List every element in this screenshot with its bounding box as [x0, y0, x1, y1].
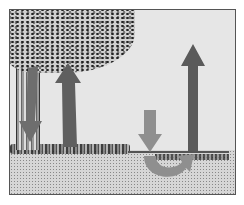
diagram-frame — [9, 9, 236, 195]
arrow-up-left-icon — [53, 63, 83, 153]
arrow-curved-soil-icon — [138, 110, 208, 190]
arrow-down-left-icon — [16, 66, 46, 146]
